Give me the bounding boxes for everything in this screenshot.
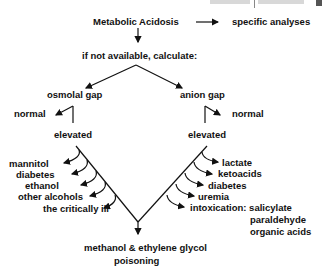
osmolal-gap-elevated: elevated — [54, 130, 92, 140]
root-node: Metabolic Acidosis — [93, 17, 179, 27]
anion-gap-title: anion gap — [180, 90, 225, 100]
specific-analyses: specific analyses — [232, 17, 310, 27]
right-cause-5: intoxication: salicylate — [190, 203, 292, 213]
right-cause-1: lactate — [222, 158, 252, 168]
right-cause-2: ketoacids — [218, 169, 262, 179]
anion-gap-normal: normal — [232, 109, 264, 119]
right-cause-3: diabetes — [208, 181, 247, 191]
left-cause-3: ethanol — [25, 181, 59, 191]
conclusion-line1: methanol & ethylene glycol — [84, 243, 207, 253]
osmolal-gap-normal: normal — [14, 109, 46, 119]
osmolal-gap-title: osmolal gap — [47, 90, 102, 100]
fallback-calculate: if not available, calculate: — [82, 51, 197, 61]
left-cause-5: the critically ill — [43, 204, 109, 214]
left-cause-2: diabetes — [16, 170, 55, 180]
right-cause-4: uremia — [198, 192, 229, 202]
intoxication-organic-acids: organic acids — [250, 227, 311, 237]
conclusion-line2: poisoning — [114, 256, 159, 266]
left-cause-1: mannitol — [9, 159, 49, 169]
anion-gap-elevated: elevated — [188, 130, 226, 140]
intoxication-paraldehyde: paraldehyde — [250, 215, 306, 225]
left-cause-4: other alcohols — [18, 192, 83, 202]
